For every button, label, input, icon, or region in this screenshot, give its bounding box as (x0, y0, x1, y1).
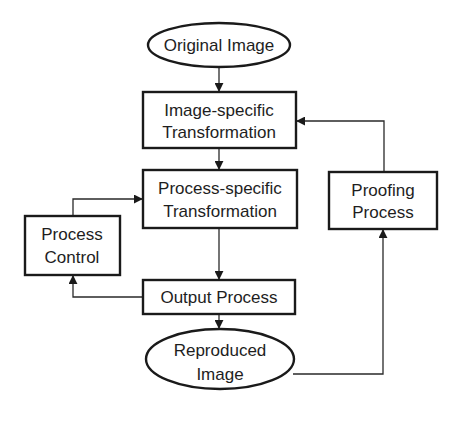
edge-process-control-to-process-specific (73, 199, 142, 216)
node-label: Output Process (160, 288, 277, 307)
node-proofing-process: Proofing Process (329, 172, 437, 229)
node-reproduced-image: Reproduced Image (146, 329, 294, 389)
node-label-line2: Transformation (162, 123, 276, 142)
node-label-line1: Process-specific (158, 179, 282, 198)
node-label-line2: Control (45, 248, 100, 267)
edge-reproduced-to-proofing (293, 230, 383, 374)
node-original-image: Original Image (148, 23, 290, 67)
node-label-line2: Process (352, 203, 413, 222)
node-output-process: Output Process (143, 280, 295, 314)
node-process-control: Process Control (25, 216, 120, 275)
node-label-line1: Image-specific (164, 101, 274, 120)
node-label-line1: Reproduced (174, 341, 267, 360)
node-label-line1: Proofing (351, 181, 414, 200)
flowchart-canvas: Original Image Image-specific Transforma… (0, 0, 464, 426)
node-image-specific-transformation: Image-specific Transformation (143, 92, 296, 148)
edge-proofing-to-image-specific (297, 121, 384, 172)
edge-output-to-process-control (73, 276, 143, 297)
node-label-line2: Image (196, 365, 243, 384)
node-label: Original Image (164, 36, 275, 55)
node-process-specific-transformation: Process-specific Transformation (143, 170, 297, 228)
node-label-line1: Process (41, 225, 102, 244)
node-label-line2: Transformation (163, 202, 277, 221)
